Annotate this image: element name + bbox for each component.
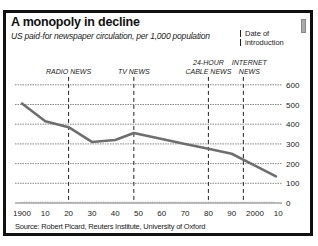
annotation-label: RADIO NEWS [46, 68, 91, 75]
y-tick-label: 500 [286, 101, 300, 110]
x-tick-label: 80 [204, 209, 213, 218]
x-tick-label: 2000 [246, 209, 264, 218]
annotation-label: TV NEWS [118, 68, 150, 75]
circulation-line [22, 104, 276, 177]
x-tick-label: 20 [64, 209, 73, 218]
y-tick-label: 100 [286, 179, 300, 188]
annotation-label: CABLE NEWS [185, 68, 231, 75]
annotation-label: INTERNET [232, 59, 268, 66]
y-tick-label: 400 [286, 120, 300, 129]
source-note: Source: Robert Picard, Reuters Institute… [15, 222, 205, 231]
y-tick-label: 0 [286, 199, 291, 208]
x-tick-label: 10 [274, 209, 283, 218]
x-tick-label: 90 [227, 209, 236, 218]
y-tick-label: 300 [286, 140, 300, 149]
line-chart: 0100200300400500600190010203040506070809… [0, 0, 318, 246]
x-tick-label: 60 [157, 209, 166, 218]
x-tick-label: 1900 [13, 209, 31, 218]
annotation-label: 24-HOUR [192, 59, 224, 66]
x-tick-label: 10 [41, 209, 50, 218]
x-tick-label: 30 [87, 209, 96, 218]
annotation-label: NEWS [239, 68, 260, 75]
x-tick-label: 70 [181, 209, 190, 218]
y-tick-label: 200 [286, 160, 300, 169]
y-tick-label: 600 [286, 81, 300, 90]
x-tick-label: 50 [134, 209, 143, 218]
x-tick-label: 40 [111, 209, 120, 218]
